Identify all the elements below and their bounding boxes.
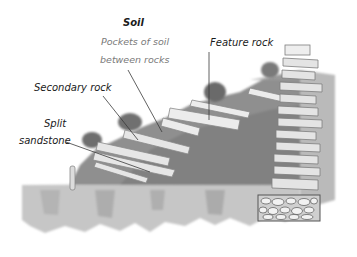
label-sandstone: sandstone — [19, 136, 71, 146]
label-feature-rock: Feature rock — [210, 38, 273, 48]
label-split: Split — [44, 119, 66, 129]
label-soil-desc-2: between rocks — [100, 55, 170, 65]
label-secondary-rock: Secondary rock — [34, 83, 112, 93]
label-soil-desc-1: Pockets of soil — [101, 37, 169, 47]
split-sandstone-post — [70, 166, 75, 190]
rock-garden-diagram: Soil Pockets of soil between rocks Featu… — [0, 0, 357, 257]
rubble-footing — [258, 195, 320, 221]
label-soil: Soil — [123, 18, 144, 28]
